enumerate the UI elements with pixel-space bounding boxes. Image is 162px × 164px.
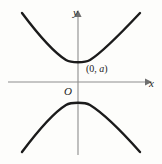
hyperbola-lower-branch xyxy=(22,103,140,152)
y-axis-label: y xyxy=(73,7,78,18)
origin-label: O xyxy=(64,86,72,97)
vertex-label-close: ) xyxy=(104,63,107,74)
vertex-label-open: (0, xyxy=(86,63,99,74)
hyperbola-figure: y x O (0, a) xyxy=(0,0,162,164)
vertex-point-label: (0, a) xyxy=(86,64,108,74)
x-axis-label: x xyxy=(149,78,154,89)
figure-canvas xyxy=(0,0,162,164)
hyperbola-upper-branch xyxy=(22,13,140,62)
